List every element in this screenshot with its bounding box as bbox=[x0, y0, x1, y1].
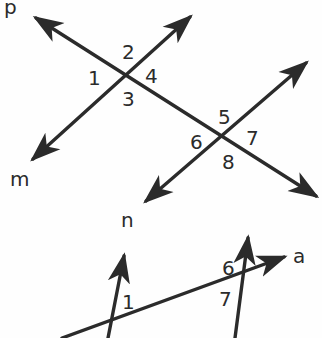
ray-left-stroke bbox=[108, 256, 124, 338]
line-m bbox=[33, 17, 190, 159]
ray-right-stroke bbox=[235, 238, 248, 338]
line-n-stroke bbox=[146, 63, 306, 201]
line-a bbox=[62, 257, 284, 338]
line-p-stroke bbox=[36, 18, 316, 196]
line-m-stroke bbox=[33, 17, 190, 159]
ray-left bbox=[108, 256, 124, 338]
ray-right bbox=[235, 238, 248, 338]
line-a-stroke bbox=[62, 257, 284, 338]
line-n bbox=[146, 63, 306, 201]
geometry-lines-svg bbox=[0, 0, 322, 338]
geometry-diagram: p m n 1 2 3 4 5 6 7 8 a 1 6 7 bbox=[0, 0, 322, 338]
line-p bbox=[36, 18, 316, 196]
